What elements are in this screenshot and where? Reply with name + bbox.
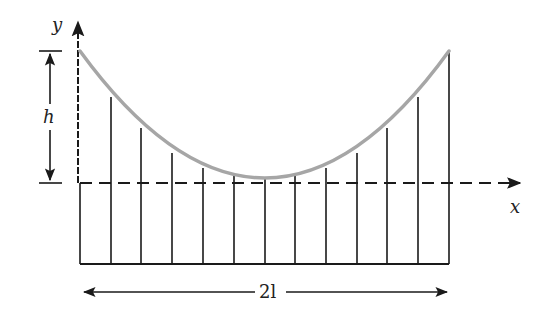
hanger-lines (80, 51, 449, 264)
height-dimension: h (39, 51, 62, 183)
cable-curve (80, 51, 449, 178)
span-label: 2l (259, 281, 276, 302)
y-axis-label: y (51, 14, 63, 35)
catenary-diagram: h 2l y x (0, 0, 547, 328)
span-dimension: 2l (84, 281, 447, 302)
x-axis-label: x (510, 196, 520, 217)
height-label: h (43, 106, 55, 127)
